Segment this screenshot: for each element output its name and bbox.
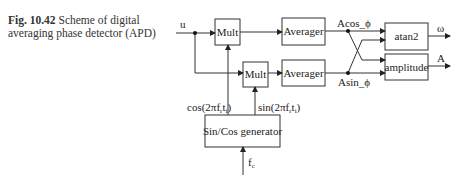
mult2-label: Mult bbox=[245, 68, 266, 80]
atan2-label: atan2 bbox=[395, 30, 419, 42]
input-u-label: u bbox=[180, 18, 186, 30]
junction-dot bbox=[346, 71, 350, 75]
junction-dot bbox=[193, 31, 197, 35]
generator-label: Sin/Cos generator bbox=[203, 125, 282, 137]
amplitude-output-label: A bbox=[437, 52, 445, 64]
cos-ref-label: cos(2πfrti) bbox=[187, 101, 231, 115]
amplitude-label: amplitude bbox=[385, 61, 429, 73]
mult1-label: Mult bbox=[217, 26, 238, 38]
averager2-label: Averager bbox=[283, 67, 323, 79]
omega-label: ω bbox=[437, 22, 444, 34]
fc-label: fc bbox=[248, 156, 255, 170]
acos-label: Acos_ϕ bbox=[337, 17, 371, 29]
sin-ref-label: sin(2πfrti) bbox=[258, 101, 301, 115]
diagram-root: Fig. 10.42 Scheme of digital averaging p… bbox=[0, 0, 472, 183]
asin-label: Asin_ϕ bbox=[338, 76, 370, 88]
block-diagram: Mult Mult Averager Averager atan2 amplit… bbox=[0, 0, 472, 183]
junction-dot bbox=[346, 29, 350, 33]
averager1-label: Averager bbox=[283, 25, 323, 37]
